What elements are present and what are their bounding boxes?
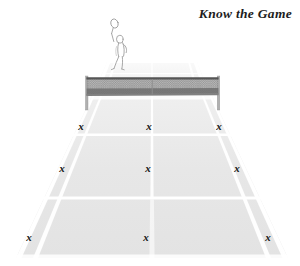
line-service <box>70 134 234 137</box>
line-net-foot <box>91 96 214 100</box>
target-mark: x <box>142 231 149 243</box>
target-mark: x <box>25 231 32 243</box>
target-mark: x <box>77 120 84 132</box>
target-mark: x <box>58 162 65 174</box>
line-centre-mark <box>149 200 154 258</box>
court-illustration: xxxxxxxxx <box>0 0 300 266</box>
line-baseline <box>16 255 288 259</box>
near-court-half <box>16 96 288 258</box>
target-mark: x <box>264 231 271 243</box>
target-mark: x <box>215 120 222 132</box>
page-title: Know the Game <box>199 7 292 22</box>
target-mark: x <box>144 162 151 174</box>
line-baseline-inner <box>39 197 265 200</box>
target-mark: x <box>145 120 152 132</box>
tennis-court-diagram: xxxxxxxxx Know the Game <box>0 0 300 266</box>
net-centre-strap <box>152 79 153 95</box>
target-mark: x <box>233 162 240 174</box>
